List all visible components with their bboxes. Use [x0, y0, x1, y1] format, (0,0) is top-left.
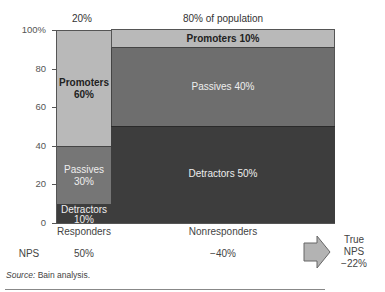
x-axis	[52, 223, 335, 224]
segment-value: 60%	[59, 89, 109, 101]
responders-detractors-segment: Detractors 10%	[57, 204, 111, 223]
segment-label: Promoters 10%	[187, 33, 260, 45]
y-tick-mark	[52, 69, 56, 70]
y-tick-0: 0	[16, 217, 46, 228]
category-responders: Responders	[57, 226, 111, 237]
segment-value: 30%	[64, 176, 104, 188]
true-nps-line1: True	[334, 234, 374, 246]
right-arrow-icon	[302, 234, 332, 270]
nps-row-label: NPS	[14, 248, 44, 259]
responders-width-label: 20%	[72, 13, 92, 24]
source-prefix: Source:	[6, 270, 35, 280]
nonresponders-promoters-segment: Promoters 10%	[111, 29, 335, 48]
responders-passives-segment: Passives 30%	[57, 146, 111, 204]
y-tick-mark	[52, 184, 56, 185]
true-nps-line2: NPS	[334, 246, 374, 258]
responders-promoters-segment: Promoters 60%	[57, 30, 111, 146]
y-tick-mark	[52, 107, 56, 108]
nonresponders-width-label: 80% of population	[183, 13, 263, 24]
nps-responders-value: 50%	[57, 248, 111, 259]
segment-label: Passives	[64, 164, 104, 176]
y-tick-40: 40	[16, 140, 46, 151]
y-tick-80: 80	[16, 63, 46, 74]
source-note: Source: Bain analysis.	[6, 270, 90, 280]
y-tick-60: 60	[16, 101, 46, 112]
nonresponders-passives-segment: Passives 40%	[111, 48, 335, 126]
y-tick-mark	[52, 146, 56, 147]
y-tick-20: 20	[16, 178, 46, 189]
y-tick-100: 100%	[16, 24, 46, 35]
segment-label: Passives 40%	[192, 81, 255, 93]
bottom-rule	[5, 289, 325, 290]
true-nps-result: True NPS −22%	[334, 234, 374, 270]
y-tick-mark	[52, 30, 56, 31]
source-text: Bain analysis.	[35, 270, 90, 280]
nonresponders-detractors-segment: Detractors 50%	[111, 126, 335, 223]
segment-label: Promoters	[59, 77, 109, 89]
segment-label: Detractors 50%	[189, 168, 258, 180]
true-nps-value: −22%	[334, 258, 374, 270]
